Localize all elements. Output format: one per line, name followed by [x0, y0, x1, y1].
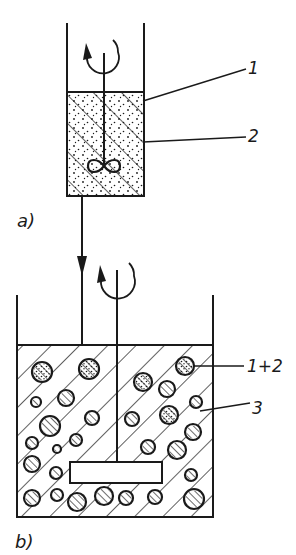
droplet	[134, 373, 152, 391]
droplet	[184, 489, 204, 509]
droplet	[32, 362, 52, 382]
droplet	[79, 359, 99, 379]
droplet	[51, 489, 63, 501]
callout-label-1plus2: 1+2	[247, 358, 283, 375]
droplet	[53, 445, 61, 453]
droplet	[58, 390, 74, 406]
mixing-process-diagram	[0, 0, 296, 555]
callout-a-1	[143, 69, 246, 101]
callout-label-3: 3	[252, 400, 263, 417]
droplet	[159, 381, 175, 397]
droplet	[70, 434, 82, 446]
droplet	[26, 437, 38, 449]
vessel-a	[67, 23, 144, 196]
droplet	[190, 396, 202, 408]
rotation-arrow-a-icon	[83, 40, 119, 73]
droplet	[40, 416, 60, 436]
callout-a-2	[143, 137, 246, 142]
flow-arrow-down-icon	[77, 256, 87, 276]
droplet	[176, 357, 194, 375]
panel-label-b: b)	[15, 533, 33, 551]
droplet	[50, 467, 62, 479]
droplet	[185, 469, 197, 481]
droplet	[160, 406, 178, 424]
paddle-blade	[70, 462, 162, 483]
callout-label-2: 2	[248, 128, 259, 145]
droplet	[168, 441, 186, 459]
droplet	[85, 411, 99, 425]
panel-label-a: a)	[17, 212, 35, 230]
droplet	[125, 412, 139, 426]
vessel-a-fill-stipple	[67, 92, 144, 196]
droplet	[119, 491, 133, 505]
transfer-pipe	[77, 196, 87, 345]
droplet	[24, 490, 40, 506]
droplet	[95, 487, 113, 505]
rotation-arrow-b-icon	[97, 263, 135, 299]
droplet	[148, 490, 162, 504]
droplet	[31, 397, 41, 407]
droplet	[68, 493, 86, 511]
droplet	[141, 440, 155, 454]
droplet	[185, 424, 201, 440]
droplet	[24, 456, 40, 472]
callout-label-1: 1	[248, 60, 259, 77]
